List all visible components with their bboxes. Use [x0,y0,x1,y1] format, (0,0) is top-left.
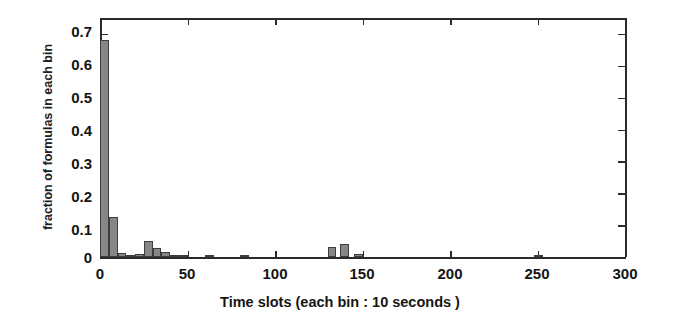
x-axis-line [100,257,626,259]
x-axis-tick [625,19,627,25]
x-axis-tick [188,19,190,25]
y-axis-tick [618,130,625,132]
y-axis-tick [618,225,625,227]
x-axis-tick [450,251,452,257]
x-axis-tick [363,19,365,25]
y-axis-tick [618,161,625,163]
histogram-bar [135,254,144,257]
histogram-bar [340,244,349,257]
y-axis-tick [618,193,625,195]
x-axis-tick [625,251,627,257]
y-axis-tick [618,66,625,68]
x-axis-tick [363,251,365,257]
x-axis-tick [275,251,277,257]
histogram-bar [161,252,170,257]
plot-area [0,0,676,329]
histogram-bar [328,247,337,257]
y-axis-tick [618,34,625,36]
plot-right-border [625,18,627,257]
x-axis-tick [188,251,190,257]
y-axis-tick [101,257,108,259]
x-axis-tick [275,19,277,25]
histogram-bar [534,255,543,257]
x-axis-tick [450,19,452,25]
y-axis-tick [618,98,625,100]
histogram-bar [205,255,214,257]
histogram-bar [240,255,249,257]
x-axis-tick [100,19,102,25]
histogram-bar [118,253,127,257]
histogram-bar [100,40,109,257]
histogram-bar [354,254,363,257]
histogram-bar [109,217,118,257]
histogram-bar [144,241,153,257]
x-axis-tick [538,19,540,25]
histogram-bar [179,255,188,257]
histogram-bar [126,255,135,257]
y-axis-tick [618,257,625,259]
histogram-bar [170,255,179,257]
histogram-figure: fraction of formulas in each bin 0.7 0.6… [0,0,676,329]
y-axis-tick [101,34,108,36]
histogram-bar [153,248,162,257]
